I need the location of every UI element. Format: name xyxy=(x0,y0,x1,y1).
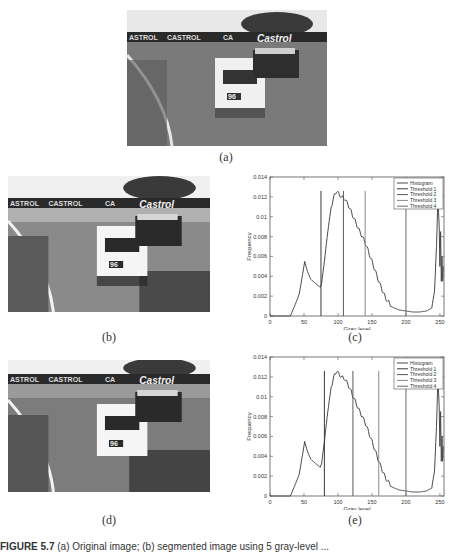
x-tick-label: 200 xyxy=(401,499,410,505)
y-tick-label: 0.014 xyxy=(253,174,267,180)
svg-text:CA: CA xyxy=(105,200,115,207)
x-tick-label: 150 xyxy=(367,319,376,325)
x-tick-label: 150 xyxy=(367,499,376,505)
y-tick-label: 0.004 xyxy=(253,453,267,459)
svg-text:96: 96 xyxy=(110,440,118,447)
y-tick-label: 0.002 xyxy=(253,473,267,479)
x-tick-label: 100 xyxy=(333,319,342,325)
legend-entry: Threshold 4 xyxy=(410,203,437,209)
y-tick-label: 0.01 xyxy=(256,214,267,220)
photo-segmented-d: ASTROL CASTROL CA Castrol 96 xyxy=(8,360,210,492)
svg-text:ASTROL: ASTROL xyxy=(10,376,40,383)
x-tick-label: 0 xyxy=(268,499,271,505)
y-tick-label: 0.006 xyxy=(253,433,267,439)
svg-text:96: 96 xyxy=(110,261,118,268)
x-tick-label: 250 xyxy=(435,499,444,505)
x-axis-label: Gray level xyxy=(343,506,370,510)
x-tick-label: 0 xyxy=(268,319,271,325)
label-b: (b) xyxy=(89,330,129,345)
photo-segmented-b: ASTROL CASTROL CA Castrol 96 xyxy=(8,176,210,312)
y-tick-label: 0.008 xyxy=(253,414,267,420)
race-car-photo: ASTROL CASTROL CA Castrol 96 xyxy=(127,10,327,146)
y-tick-label: 0.012 xyxy=(253,194,267,200)
svg-text:CASTROL: CASTROL xyxy=(48,200,83,207)
caption-text: (a) Original image; (b) segmented image … xyxy=(57,541,329,552)
histogram-chart-c: 00.0020.0040.0060.0080.010.0120.01405010… xyxy=(230,170,450,330)
x-tick-label: 50 xyxy=(301,499,307,505)
y-tick-label: 0.01 xyxy=(256,394,267,400)
segmented-photo-d: ASTROL CASTROL CA Castrol 96 xyxy=(8,360,210,492)
histogram-plot-e: 00.0020.0040.0060.0080.010.0120.01405010… xyxy=(230,350,450,510)
y-axis-label: Frequency xyxy=(246,232,252,260)
y-tick-label: 0.008 xyxy=(253,234,267,240)
x-tick-label: 50 xyxy=(301,319,307,325)
svg-text:ASTROL: ASTROL xyxy=(10,200,40,207)
x-tick-label: 200 xyxy=(401,319,410,325)
svg-text:CA: CA xyxy=(223,34,233,41)
label-e: (e) xyxy=(335,513,375,528)
figure-caption: FIGURE 5.7 (a) Original image; (b) segme… xyxy=(0,541,450,552)
photo-original: ASTROL CASTROL CA Castrol 96 xyxy=(127,10,327,146)
x-tick-label: 250 xyxy=(435,319,444,325)
segmented-photo-b: ASTROL CASTROL CA Castrol 96 xyxy=(8,176,210,312)
histogram-chart-e: 00.0020.0040.0060.0080.010.0120.01405010… xyxy=(230,350,450,510)
y-tick-label: 0 xyxy=(264,493,267,499)
y-tick-label: 0.014 xyxy=(253,354,267,360)
svg-text:CASTROL: CASTROL xyxy=(48,376,83,383)
label-c: (c) xyxy=(335,330,375,345)
svg-text:CA: CA xyxy=(105,376,115,383)
svg-text:Castrol: Castrol xyxy=(257,33,292,44)
y-tick-label: 0.012 xyxy=(253,374,267,380)
y-tick-label: 0.002 xyxy=(253,293,267,299)
label-a: (a) xyxy=(206,150,246,165)
legend-entry: Threshold 4 xyxy=(410,383,437,389)
svg-text:96: 96 xyxy=(228,93,236,100)
label-d: (d) xyxy=(89,513,129,528)
y-tick-label: 0.004 xyxy=(253,273,267,279)
svg-text:ASTROL: ASTROL xyxy=(129,34,159,41)
x-tick-label: 100 xyxy=(333,499,342,505)
caption-prefix: FIGURE 5.7 xyxy=(0,541,54,552)
histogram-plot-c: 00.0020.0040.0060.0080.010.0120.01405010… xyxy=(230,170,450,330)
svg-text:CASTROL: CASTROL xyxy=(167,34,202,41)
y-axis-label: Frequency xyxy=(246,412,252,440)
y-tick-label: 0.006 xyxy=(253,253,267,259)
y-tick-label: 0 xyxy=(264,313,267,319)
